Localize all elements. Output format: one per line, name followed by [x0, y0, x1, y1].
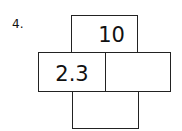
top-cell: 10	[71, 15, 138, 53]
middle-right-cell-answer[interactable]	[105, 52, 171, 92]
problem-number: 4.	[12, 17, 23, 31]
bottom-cell-answer[interactable]	[72, 91, 139, 129]
middle-left-cell: 2.3	[38, 52, 106, 92]
